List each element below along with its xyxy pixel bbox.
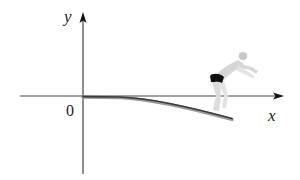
y-axis-label: y (64, 7, 72, 27)
diving-board (83, 97, 232, 120)
y-axis (80, 12, 87, 174)
diver-figure (210, 52, 258, 111)
origin-label: 0 (66, 102, 74, 120)
x-axis (20, 93, 284, 100)
diver-head (239, 52, 247, 60)
x-axis-label: x (268, 106, 276, 126)
diagram-canvas (0, 0, 300, 180)
